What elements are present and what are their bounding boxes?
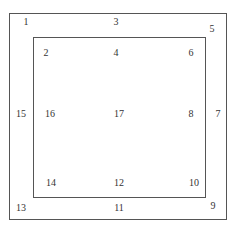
label-2: 2 xyxy=(44,48,49,58)
label-14: 14 xyxy=(46,178,56,188)
label-1: 1 xyxy=(24,17,29,27)
label-17: 17 xyxy=(114,109,124,119)
label-6: 6 xyxy=(189,48,194,58)
label-13: 13 xyxy=(16,203,26,213)
label-8: 8 xyxy=(189,109,194,119)
label-9: 9 xyxy=(211,201,216,211)
label-16: 16 xyxy=(45,109,55,119)
label-12: 12 xyxy=(114,178,124,188)
label-7: 7 xyxy=(216,109,221,119)
label-10: 10 xyxy=(189,178,199,188)
label-15: 15 xyxy=(16,109,26,119)
label-5: 5 xyxy=(210,24,215,34)
label-11: 11 xyxy=(114,203,124,213)
label-3: 3 xyxy=(114,17,119,27)
label-4: 4 xyxy=(114,48,119,58)
